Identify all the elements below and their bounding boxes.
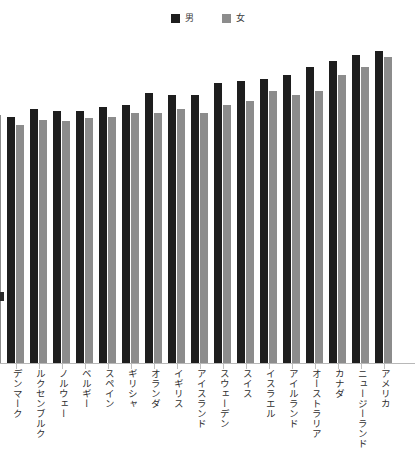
bar-female — [131, 113, 139, 363]
x-axis-label: ニュージーランド — [355, 369, 367, 449]
x-axis-label: オランダ — [148, 369, 160, 409]
x-axis-label: イスラエル — [263, 369, 275, 419]
x-axis-tick — [62, 364, 63, 369]
x-axis-label: スウェーデン — [217, 369, 229, 429]
x-axis-tick — [223, 364, 224, 369]
bar-female — [223, 105, 231, 363]
bar-male — [283, 75, 291, 363]
bar-female — [0, 115, 1, 363]
x-axis-tick — [39, 364, 40, 369]
bar-male — [30, 109, 38, 363]
bar-female — [16, 125, 24, 363]
x-axis-label: ギリシャ — [125, 369, 137, 409]
x-axis-label: ノルウェー — [56, 369, 68, 419]
bar-male — [329, 61, 337, 363]
x-axis-tick — [269, 364, 270, 369]
x-axis-tick — [85, 364, 86, 369]
bar-female — [361, 67, 369, 363]
x-axis-label: オーストラリア — [309, 369, 321, 439]
bar-female — [39, 120, 47, 363]
bar-male — [122, 105, 130, 363]
bar-male — [53, 111, 61, 363]
x-axis-tick — [338, 364, 339, 369]
bar-male — [237, 81, 245, 363]
bar-female — [177, 109, 185, 363]
x-axis-label: カナダ — [332, 369, 344, 399]
x-axis-tick — [292, 364, 293, 369]
bar-female — [62, 121, 70, 363]
bar-male — [306, 67, 314, 363]
bar-female — [384, 57, 392, 363]
x-axis-label: スイス — [240, 369, 252, 399]
x-axis-label: イギリス — [171, 369, 183, 409]
bar-male — [214, 83, 222, 363]
bar-female — [85, 118, 93, 363]
bar-female — [200, 113, 208, 363]
bar-female — [246, 101, 254, 363]
bar-male — [168, 95, 176, 363]
x-axis-tick — [384, 364, 385, 369]
x-axis-label: アイルランド — [286, 369, 298, 429]
x-axis-label: ベルギー — [79, 369, 91, 409]
bar-male — [145, 93, 153, 363]
x-axis-tick — [154, 364, 155, 369]
bar-male — [99, 107, 107, 363]
x-axis-label: スペイン — [102, 369, 114, 409]
x-axis-tick — [177, 364, 178, 369]
x-axis-tick — [131, 364, 132, 369]
x-axis-tick — [200, 364, 201, 369]
x-axis-tick — [361, 364, 362, 369]
bar-chart: 男 女 オーストリアデンマークルクセンブルクノルウェーベルギースペインギリシャオ… — [0, 0, 415, 456]
bar-male — [76, 111, 84, 363]
x-axis-label: アイスランド — [194, 369, 206, 429]
bar-male — [375, 51, 383, 363]
x-axis-tick — [16, 364, 17, 369]
bar-female — [154, 113, 162, 363]
x-axis-tick — [108, 364, 109, 369]
bar-female — [338, 75, 346, 363]
bar-male — [191, 95, 199, 363]
clipped-axis-marker — [0, 292, 4, 301]
plot-area — [0, 0, 415, 364]
x-axis-tick — [315, 364, 316, 369]
x-axis-label: デンマーク — [10, 369, 22, 419]
bar-male — [352, 55, 360, 363]
bar-female — [292, 95, 300, 363]
bar-female — [108, 117, 116, 363]
bar-female — [315, 91, 323, 363]
bar-male — [7, 117, 15, 363]
bar-male — [260, 79, 268, 363]
x-axis-label: ルクセンブルク — [33, 369, 45, 439]
x-axis-label: アメリカ — [378, 369, 390, 409]
bar-female — [269, 91, 277, 363]
x-axis-tick — [246, 364, 247, 369]
x-axis-labels: オーストリアデンマークルクセンブルクノルウェーベルギースペインギリシャオランダイ… — [0, 369, 415, 456]
